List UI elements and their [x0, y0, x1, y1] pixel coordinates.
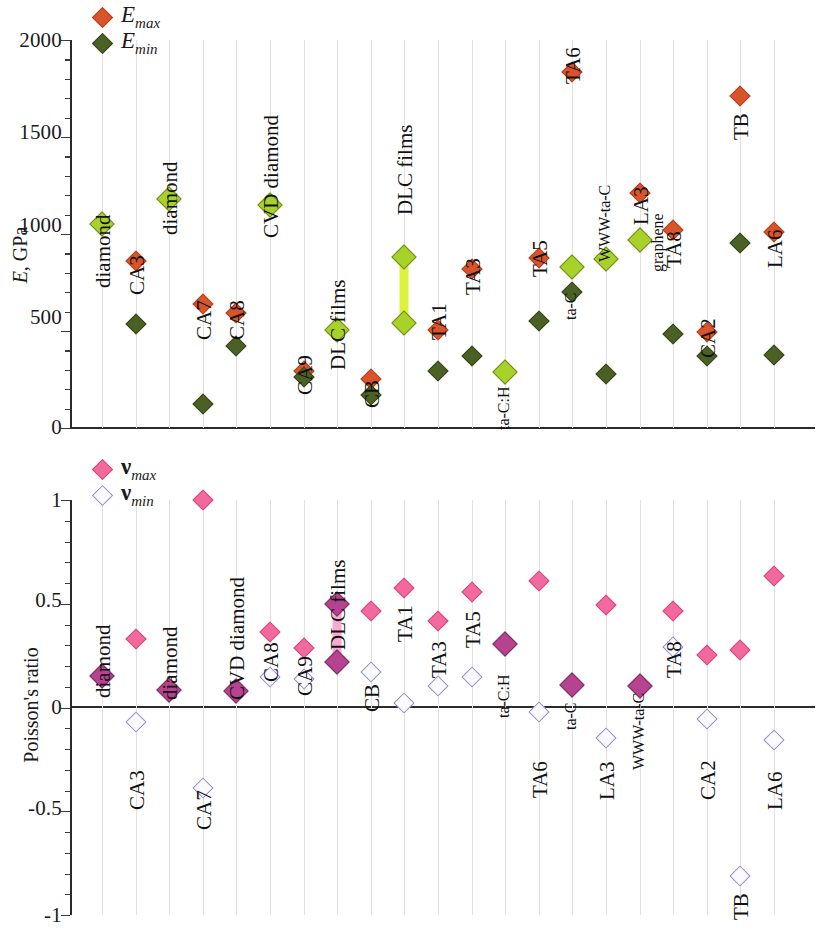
poissons-ratio-panel: Poisson's ratio 1 0.5 0 -0.5 -1 diamondC… — [0, 450, 818, 930]
point-label-DLC-films: DLC films — [328, 280, 349, 370]
gridline-20 — [740, 500, 741, 915]
ytick-mark-1600 — [65, 118, 70, 119]
point-label-TA8: TA8 — [664, 641, 685, 678]
ytick-mark-0.2 — [65, 666, 70, 667]
point-label-TA1: TA1 — [395, 605, 416, 642]
numin-diamond-icon — [92, 484, 113, 505]
point-label-TA1: TA1 — [429, 303, 450, 340]
point-label-TA5: TA5 — [463, 611, 484, 648]
ytick-mark-1900 — [65, 59, 70, 60]
emax-diamond-icon — [92, 6, 113, 27]
gridline-18 — [673, 500, 674, 915]
ytick-mark-1000 — [61, 234, 70, 235]
gridline-16 — [606, 500, 607, 915]
emin-diamond-icon — [92, 32, 113, 53]
point-label-TA6: TA6 — [530, 761, 551, 798]
ytick-mark-0.6 — [65, 583, 70, 584]
ytick-n0p5: -0.5 — [0, 798, 62, 819]
point-label-LA6: LA6 — [765, 772, 786, 811]
marker-nu-max-TA6 — [528, 570, 549, 591]
young-modulus-panel: E, GPa 2000 1500 1000 500 0 diamondCA3di… — [0, 0, 818, 455]
plot-area-bottom: diamondCA3diamondCA7CVD diamondCA8CA9DLC… — [70, 500, 815, 915]
ytick-mark-900 — [65, 253, 70, 254]
ytick-mark-1200 — [65, 195, 70, 196]
ytick-mark--1 — [61, 915, 70, 916]
ytick-mark-500 — [61, 331, 70, 332]
legend-row-emin: Emin — [95, 30, 160, 56]
marker-nu-min-CA2 — [696, 708, 717, 729]
point-label-TA6: TA6 — [563, 47, 584, 84]
marker-emin-TB — [730, 232, 751, 253]
point-label-TA3: TA3 — [429, 641, 450, 678]
point-label-TA3: TA3 — [463, 258, 484, 295]
ytick-mark-1 — [61, 500, 70, 501]
ytick-mark-1700 — [65, 98, 70, 99]
point-label-CVD-diamond: CVD diamond — [227, 577, 248, 700]
point-label-LA6: LA6 — [765, 230, 786, 269]
point-label-CA7: CA7 — [194, 790, 215, 830]
marker-nu-max-TA3 — [427, 611, 448, 632]
point-label-diamond: diamond — [93, 215, 114, 289]
ytick-mark--0.5 — [61, 811, 70, 812]
ytick-mark-800 — [65, 273, 70, 274]
point-label-TB: TB — [731, 893, 752, 920]
marker-nu-max-CB — [360, 600, 381, 621]
gridline-6 — [270, 500, 271, 915]
ytick-mark-1800 — [65, 79, 70, 80]
gridline-12 — [472, 40, 473, 428]
marker-nu-min-TB — [730, 865, 751, 886]
ytick-mark-0.5 — [61, 604, 70, 605]
legend-label-emin: Emin — [121, 29, 158, 57]
legend-label-numin: νmin — [121, 481, 154, 509]
point-label-diamond: diamond — [93, 625, 114, 699]
marker-emin-CA3 — [125, 314, 146, 335]
gridline-12 — [472, 500, 473, 915]
marker-nu-max-CA2 — [696, 644, 717, 665]
ytick-mark-0.8 — [65, 542, 70, 543]
point-label-CB: CB — [362, 684, 383, 712]
ytick-mark-0.4 — [65, 625, 70, 626]
point-label-CA8: CA8 — [261, 642, 282, 682]
ytick-0: 0 — [0, 417, 62, 438]
legend-label-numax: νmax — [121, 455, 156, 483]
gridline-2 — [136, 40, 137, 428]
point-label-diamond: diamond — [160, 627, 181, 701]
marker-nu-max-LA3 — [595, 594, 616, 615]
ytick-1000: 1000 — [0, 215, 62, 236]
ytick-2000: 2000 — [0, 30, 62, 51]
gridline-5 — [236, 500, 237, 915]
marker-emin-LA6 — [763, 344, 784, 365]
ytick-mark-0.1 — [65, 687, 70, 688]
ytick-mark-400 — [65, 350, 70, 351]
ytick-mark-100 — [65, 409, 70, 410]
ytick-mark-1300 — [65, 176, 70, 177]
point-label-CA2: CA2 — [698, 760, 719, 800]
ytick-mark-1100 — [65, 215, 70, 216]
marker-emin-TA3 — [461, 345, 482, 366]
marker-emax-ta-C — [560, 254, 585, 279]
marker-nu-min-LA6 — [763, 729, 784, 750]
gridline-5 — [236, 40, 237, 428]
point-label-CA7: CA7 — [194, 300, 215, 340]
ytick-mark-1500 — [61, 137, 70, 138]
gridline-14 — [539, 40, 540, 428]
ytick-n1: -1 — [0, 905, 62, 926]
marker-isotropic-ta-C:H — [492, 359, 517, 384]
marker-emin-TA1 — [427, 361, 448, 382]
marker-nu-min-TA5 — [461, 667, 482, 688]
ytick-mark-600 — [65, 312, 70, 313]
legend-label-emax: Emax — [121, 3, 160, 31]
marker-nu-min-TA6 — [528, 701, 549, 722]
point-label-CB: CB — [362, 380, 383, 408]
ytick-zero: 0 — [0, 697, 62, 718]
point-label-ta-C: ta-C — [563, 702, 579, 730]
legend-top: Emax Emin — [95, 4, 160, 56]
ytick-mark--0.9 — [65, 894, 70, 895]
marker-nu-min-LA3 — [595, 727, 616, 748]
marker-emin-TA5 — [528, 310, 549, 331]
ytick-mark-0.7 — [65, 562, 70, 563]
marker-emin-DLC films — [392, 311, 417, 336]
ytick-mark-0.3 — [65, 645, 70, 646]
point-label-ta-C: ta-C — [563, 292, 579, 320]
marker-emax-DLC films — [392, 245, 417, 270]
